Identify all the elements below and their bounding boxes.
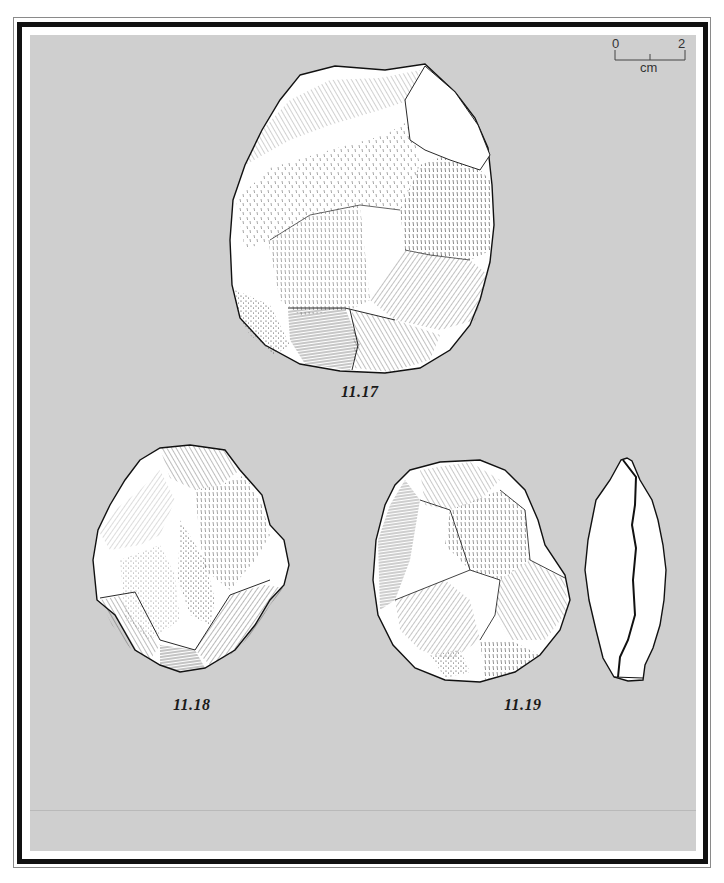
artifact-11-18 bbox=[93, 445, 289, 672]
artifact-11-19-face bbox=[373, 460, 570, 682]
figure-caption-11-17: 11.17 bbox=[341, 383, 379, 401]
artifact-11-17 bbox=[230, 64, 494, 373]
artifact-11-19-profile bbox=[585, 458, 666, 681]
artifact-drawings bbox=[0, 0, 724, 883]
figure-caption-11-18: 11.18 bbox=[173, 696, 211, 714]
figure-caption-11-19: 11.19 bbox=[504, 696, 542, 714]
